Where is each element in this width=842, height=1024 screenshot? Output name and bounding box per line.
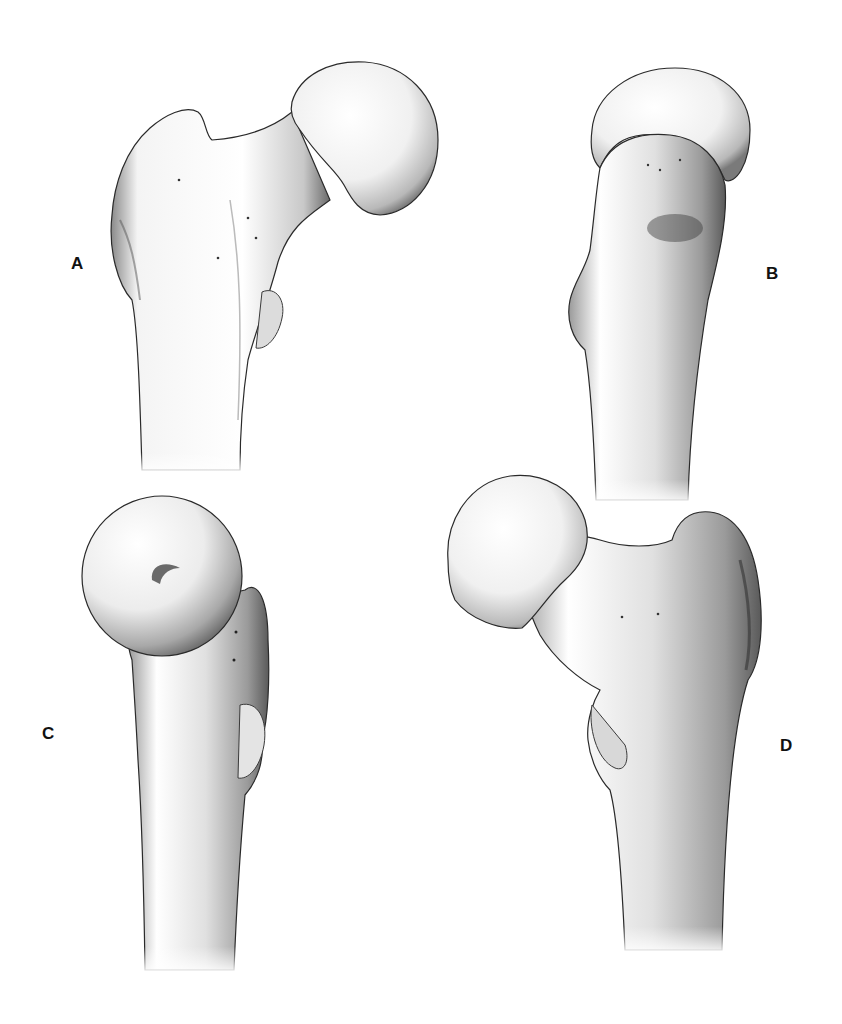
femur-c-lesser-trochanter [238,704,265,778]
panel-label-d: D [780,737,792,754]
panel-label-a: A [71,255,83,272]
femur-view-a [111,62,438,475]
femur-view-d [448,475,761,955]
femur-drawings [0,0,842,1024]
femur-view-c [82,496,280,975]
femur-illustration: A B C D [0,0,842,1024]
panel-label-b: B [766,265,778,282]
panel-label-c: C [42,725,54,742]
femur-view-b [569,68,750,505]
femur-b-fossa-shading [647,214,703,242]
